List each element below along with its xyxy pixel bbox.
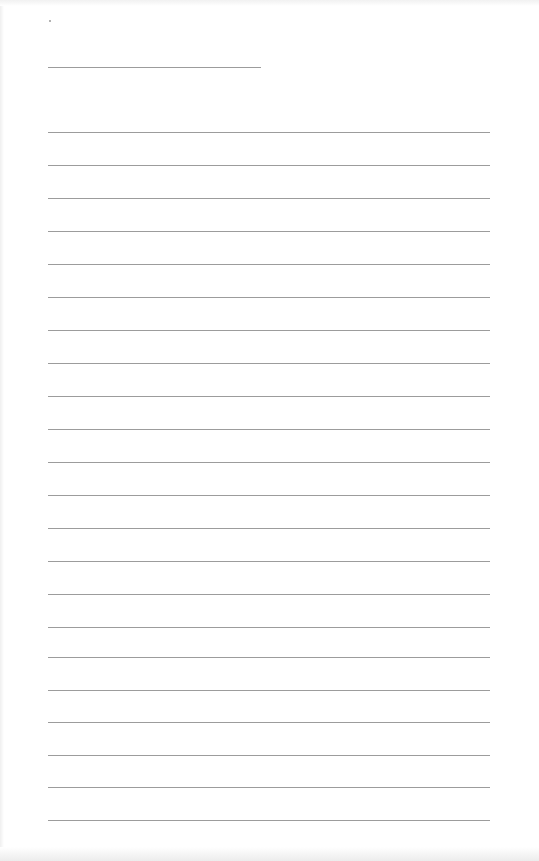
- ruled-line: [48, 755, 490, 756]
- ruled-line: [48, 495, 490, 496]
- ruled-line: [48, 722, 490, 723]
- ruled-line: [48, 528, 490, 529]
- ruled-line: [48, 594, 490, 595]
- ruled-line: [48, 820, 490, 821]
- ruled-line: [48, 132, 490, 133]
- ruled-line: [48, 165, 490, 166]
- ruled-line: [48, 429, 490, 430]
- ruled-line: [48, 330, 490, 331]
- scan-edge-shadow: [0, 0, 4, 861]
- ruled-line: [48, 396, 490, 397]
- scan-top-shadow: [0, 0, 539, 6]
- ruled-line: [48, 787, 490, 788]
- stray-mark: [49, 20, 51, 22]
- ruled-line: [48, 627, 490, 628]
- ruled-line: [48, 264, 490, 265]
- lined-paper-page: [0, 0, 539, 861]
- ruled-line: [48, 462, 490, 463]
- ruled-line: [48, 690, 490, 691]
- ruled-line: [48, 363, 490, 364]
- ruled-line: [48, 198, 490, 199]
- ruled-line: [48, 561, 490, 562]
- title-line: [48, 67, 261, 68]
- ruled-line: [48, 657, 490, 658]
- ruled-line: [48, 297, 490, 298]
- scan-bottom-shadow: [0, 847, 539, 861]
- ruled-line: [48, 231, 490, 232]
